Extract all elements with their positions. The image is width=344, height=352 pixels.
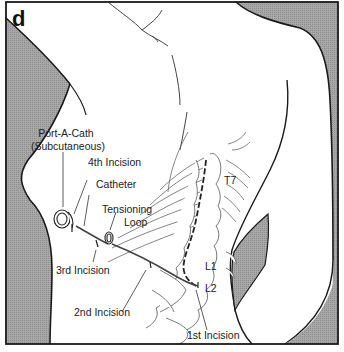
catheter-placement-illustration: d Port-A-Cath (Subcutaneous) 4th Incisio… [0,0,344,352]
